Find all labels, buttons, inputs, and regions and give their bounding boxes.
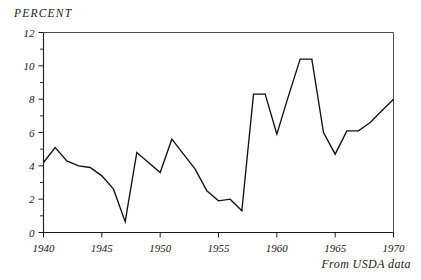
x-tick-label: 1955 (208, 242, 231, 254)
y-tick-label: 2 (29, 193, 35, 205)
y-tick-label: 0 (29, 227, 35, 239)
x-tick-label: 1965 (324, 242, 347, 254)
y-tick-label: 12 (24, 27, 36, 39)
y-tick-label: 6 (29, 127, 35, 139)
plot-frame-top-right (44, 33, 394, 233)
y-tick-label: 4 (29, 160, 35, 172)
y-axis-ticks (39, 33, 44, 233)
data-series-line (44, 59, 394, 222)
plot-frame (44, 33, 394, 233)
line-chart-plot: 024681012 1940194519501955196019651970 (0, 0, 421, 280)
source-caption: From USDA data (321, 257, 411, 272)
chart-figure: PERCENT 024681012 1940194519501955196019… (0, 0, 421, 280)
plot-axis-left-bottom (44, 33, 394, 233)
x-axis-ticks (44, 233, 394, 238)
x-axis-tick-labels: 1940194519501955196019651970 (33, 242, 406, 254)
y-tick-label: 8 (29, 93, 35, 105)
x-tick-label: 1960 (266, 242, 289, 254)
series-polyline (44, 59, 394, 222)
x-tick-label: 1970 (383, 242, 406, 254)
y-tick-label: 10 (24, 60, 36, 72)
x-tick-label: 1950 (149, 242, 172, 254)
y-axis-tick-labels: 024681012 (24, 27, 36, 239)
x-tick-label: 1940 (33, 242, 56, 254)
x-tick-label: 1945 (91, 242, 114, 254)
